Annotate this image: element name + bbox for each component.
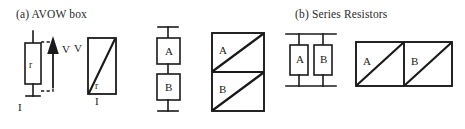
panel-b-avow-box-art (148, 0, 276, 129)
panel-b-series-resistors: (b) Series Resistors (148, 0, 276, 129)
panel-c-avow-box-art (278, 0, 465, 129)
avow-figure: (a) AVOW box (0, 0, 465, 129)
panel-a-avow-current-axis-label: I (95, 96, 99, 107)
panel-b-avow-cell-b-label: B (219, 84, 226, 95)
panel-c-avow-cell-b-label: B (411, 56, 418, 67)
panel-a-avow-voltage-axis-label: V (74, 43, 82, 54)
panel-a-avow-diagonal-label: r (95, 81, 98, 92)
panel-c-avow-cell-a-label: A (363, 56, 371, 67)
panel-c-parallel-resistors: (c) Parallel Resistors (278, 0, 465, 129)
panel-a-avow-box-art (0, 0, 150, 129)
panel-a-avow-box: (a) AVOW box (0, 0, 150, 129)
panel-b-avow-cell-a-label: A (219, 45, 227, 56)
